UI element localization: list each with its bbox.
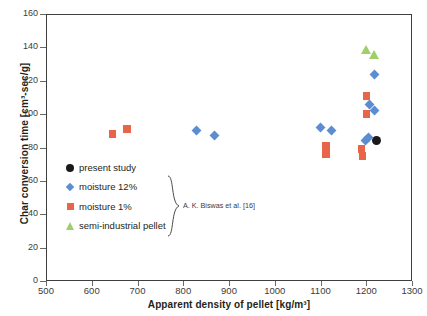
y-tick-label: 160	[4, 9, 38, 18]
y-tick-mark	[40, 148, 46, 149]
chart-figure: Char conversion time [cm³-sec/g] 0204060…	[0, 0, 427, 316]
x-tick-label: 900	[209, 286, 249, 296]
x-tick-label: 1300	[392, 286, 427, 296]
x-tick-label: 800	[163, 286, 203, 296]
x-tick-label: 500	[26, 286, 66, 296]
y-tick-label: 40	[4, 209, 38, 218]
legend-item-semi-industrial-pellet: semi-industrial pellet	[63, 217, 243, 237]
plot-area	[46, 14, 412, 281]
y-tick-label: 120	[4, 76, 38, 85]
legend-label: moisture 12%	[77, 182, 137, 192]
y-tick-mark	[40, 14, 46, 15]
circle-marker-icon	[63, 164, 77, 172]
y-tick-mark	[40, 114, 46, 115]
y-tick-mark	[40, 181, 46, 182]
legend-label: present study	[77, 163, 136, 173]
y-tick-label: 20	[4, 243, 38, 252]
square-marker-icon	[63, 203, 77, 210]
x-tick-label: 1200	[346, 286, 386, 296]
x-tick-label: 700	[118, 286, 158, 296]
y-tick-mark	[40, 248, 46, 249]
y-tick-label: 80	[4, 143, 38, 152]
citation-note: A. K. Biswas et al. [16]	[183, 202, 255, 210]
x-axis-title: Apparent density of pellet [kg/m³]	[46, 299, 412, 310]
x-tick-label: 1100	[301, 286, 341, 296]
chart-legend: present study moisture 12% moisture 1% s…	[63, 158, 243, 236]
triangle-marker-icon	[63, 222, 77, 230]
y-tick-label: 0	[4, 276, 38, 285]
x-tick-label: 1000	[255, 286, 295, 296]
legend-label: moisture 1%	[77, 202, 132, 212]
y-tick-mark	[40, 81, 46, 82]
y-tick-label: 140	[4, 42, 38, 51]
legend-label: semi-industrial pellet	[77, 221, 166, 231]
y-tick-label: 60	[4, 176, 38, 185]
diamond-marker-icon	[63, 184, 77, 190]
legend-item-moisture-12: moisture 12%	[63, 178, 243, 198]
y-tick-label: 100	[4, 109, 38, 118]
legend-item-present-study: present study	[63, 158, 243, 178]
y-tick-mark	[40, 47, 46, 48]
x-tick-label: 600	[72, 286, 112, 296]
y-tick-mark	[40, 214, 46, 215]
brace-icon	[167, 175, 181, 237]
